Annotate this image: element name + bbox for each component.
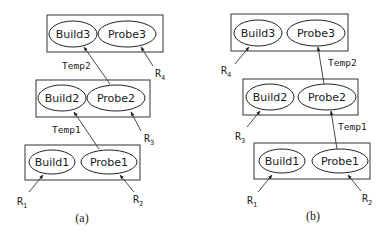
- r3-label: R3: [235, 131, 245, 145]
- r1-label: R1: [247, 195, 257, 209]
- caption-b: (b): [306, 209, 320, 223]
- diagram-b: Build3 Probe3 Build2 Probe2 Build1 Probe…: [221, 14, 372, 223]
- stage-1-box: Build1 Probe1: [25, 145, 140, 180]
- probe3-label: Probe3: [297, 27, 335, 40]
- r1-label: R1: [17, 196, 27, 210]
- temp1-label: Temp1: [338, 121, 367, 132]
- r4-label: R4: [221, 65, 231, 79]
- temp2-label: Temp2: [328, 57, 357, 68]
- probe1-label: Probe1: [90, 156, 128, 169]
- build3-label: Build3: [241, 27, 276, 40]
- r3-label: R3: [144, 133, 154, 147]
- r2-edge: [348, 175, 361, 191]
- stage-1-box: Build1 Probe1: [254, 143, 370, 179]
- r1-edge: [29, 175, 43, 192]
- stage-3-box: Build3 Probe3: [47, 15, 163, 52]
- caption-a: (a): [75, 211, 88, 225]
- r3-edge: [247, 111, 260, 127]
- r4-label: R4: [155, 68, 165, 82]
- r1-edge: [258, 175, 272, 192]
- build1-label: Build1: [265, 155, 300, 168]
- temp2-edge: [318, 47, 324, 84]
- probe3-label: Probe3: [108, 28, 146, 41]
- build1-label: Build1: [35, 156, 70, 169]
- r2-label: R2: [133, 194, 143, 208]
- temp1-label: Temp1: [52, 124, 81, 135]
- diagram-a: Build3 Probe3 Build2 Probe2 Build1 Probe…: [17, 15, 165, 225]
- temp2-label: Temp2: [62, 60, 91, 71]
- stage-2-box: Build2 Probe2: [36, 80, 150, 117]
- probe2-label: Probe2: [97, 92, 135, 105]
- probe1-label: Probe1: [321, 155, 359, 168]
- r4-edge: [141, 47, 153, 66]
- stage-2-box: Build2 Probe2: [243, 79, 358, 115]
- probe2-label: Probe2: [308, 91, 346, 104]
- r4-edge: [235, 47, 249, 64]
- build2-label: Build2: [253, 91, 288, 104]
- r2-edge: [120, 175, 134, 192]
- build2-label: Build2: [45, 92, 80, 105]
- stage-3-box: Build3 Probe3: [231, 14, 348, 51]
- join-plan-diagrams: Build3 Probe3 Build2 Probe2 Build1 Probe…: [0, 0, 388, 234]
- r2-label: R2: [362, 193, 372, 207]
- r3-edge: [131, 112, 141, 131]
- build3-label: Build3: [56, 28, 91, 41]
